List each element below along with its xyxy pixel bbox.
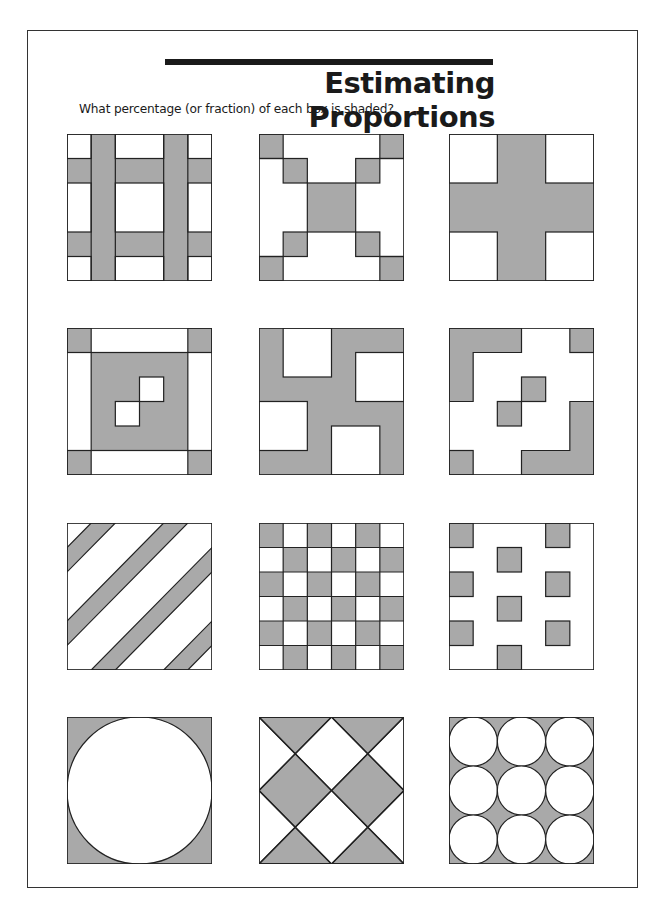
- box-2-x-squares: [259, 134, 404, 281]
- box-1-tartan-grid: [67, 134, 212, 281]
- page-title: Estimating Proportions: [165, 66, 495, 134]
- box-8-checkerboard: [259, 523, 404, 670]
- box-3-plus-cross: [449, 134, 594, 281]
- instructions: What percentage (or fraction) of each bo…: [79, 102, 394, 116]
- box-11-diamonds: [259, 717, 404, 864]
- box-12-nine-circles: [449, 717, 594, 864]
- box-4-framed-center: [67, 328, 212, 475]
- box-5-pinwheel: [259, 328, 404, 475]
- box-7-diagonal-stripes: [67, 523, 212, 670]
- box-10-inscribed-circle: [67, 717, 212, 864]
- title-rule: [165, 59, 493, 65]
- box-6-l-shapes: [449, 328, 594, 475]
- box-9-scattered-squares: [449, 523, 594, 670]
